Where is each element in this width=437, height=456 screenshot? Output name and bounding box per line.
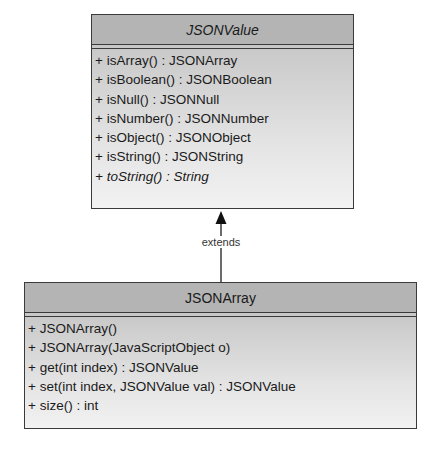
method-get: + get(int index) : JSONValue <box>28 358 416 377</box>
method-constructor: + JSONArray() <box>28 319 416 338</box>
method-set: + set(int index, JSONValue val) : JSONVa… <box>28 377 416 396</box>
methods-compartment: + JSONArray() + JSONArray(JavaScriptObje… <box>25 317 416 428</box>
method-constructor-jso: + JSONArray(JavaScriptObject o) <box>28 338 416 357</box>
arrowhead-icon <box>216 211 227 224</box>
class-name-jsonarray: JSONArray <box>25 283 416 313</box>
relationship-label: extends <box>195 236 247 248</box>
class-jsonarray: JSONArray + JSONArray() + JSONArray(Java… <box>24 282 417 429</box>
method-size: + size() : int <box>28 396 416 415</box>
